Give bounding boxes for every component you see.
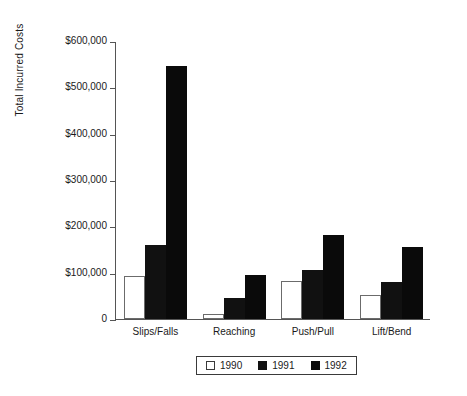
x-axis-label-3: Lift/Bend [352, 326, 431, 337]
y-axis-title: Total Incurred Costs [14, 0, 34, 150]
bar-group-inner [124, 42, 187, 319]
legend-entry-1992[interactable]: 1992 [311, 360, 347, 371]
bar-lift-bend-1992 [402, 247, 423, 319]
y-axis-tick-label: $500,000 [65, 81, 107, 92]
bar-push-pull-1991 [302, 270, 323, 319]
x-axis-category-labels: Slips/FallsReachingPush/PullLift/Bend [116, 326, 431, 337]
y-axis-tick-label: $100,000 [65, 267, 107, 278]
bar-group-inner [203, 42, 266, 319]
bar-reaching-1990 [203, 314, 224, 319]
y-axis-tick-label: $300,000 [65, 174, 107, 185]
bar-group [195, 42, 274, 319]
x-axis-label-0: Slips/Falls [116, 326, 195, 337]
y-axis-tick-mark [110, 320, 116, 321]
plot-area: 0$100,000$200,000$300,000$400,000$500,00… [115, 42, 430, 320]
bar-reaching-1991 [224, 298, 245, 319]
legend-swatch-1991 [258, 361, 267, 370]
bar-lift-bend-1990 [360, 295, 381, 319]
bar-slips-falls-1990 [124, 276, 145, 319]
x-axis-line [115, 319, 430, 320]
legend-label-1990: 1990 [220, 360, 242, 371]
legend-swatch-1992 [311, 361, 320, 370]
chart-legend: 199019911992 [196, 356, 357, 375]
bar-reaching-1992 [245, 275, 266, 319]
legend-label-1992: 1992 [325, 360, 347, 371]
x-axis-label-2: Push/Pull [274, 326, 353, 337]
y-axis-tick-label: $600,000 [65, 35, 107, 46]
legend-label-1991: 1991 [272, 360, 294, 371]
bar-group [273, 42, 352, 319]
bar-group [352, 42, 431, 319]
bar-groups [116, 42, 430, 319]
bar-chart: Total Incurred Costs 0$100,000$200,000$3… [0, 0, 467, 396]
y-axis-tick-label: $200,000 [65, 220, 107, 231]
legend-swatch-1990 [206, 361, 215, 370]
bar-push-pull-1990 [281, 281, 302, 319]
bar-slips-falls-1991 [145, 245, 166, 319]
bar-slips-falls-1992 [166, 66, 187, 319]
legend-entry-1991[interactable]: 1991 [258, 360, 294, 371]
y-axis-tick-label: 0 [101, 313, 107, 324]
legend-entry-1990[interactable]: 1990 [206, 360, 242, 371]
x-axis-label-1: Reaching [195, 326, 274, 337]
bar-lift-bend-1991 [381, 282, 402, 319]
y-axis-tick-label: $400,000 [65, 128, 107, 139]
bar-group-inner [281, 42, 344, 319]
bar-push-pull-1992 [323, 235, 344, 319]
bar-group-inner [360, 42, 423, 319]
bar-group [116, 42, 195, 319]
